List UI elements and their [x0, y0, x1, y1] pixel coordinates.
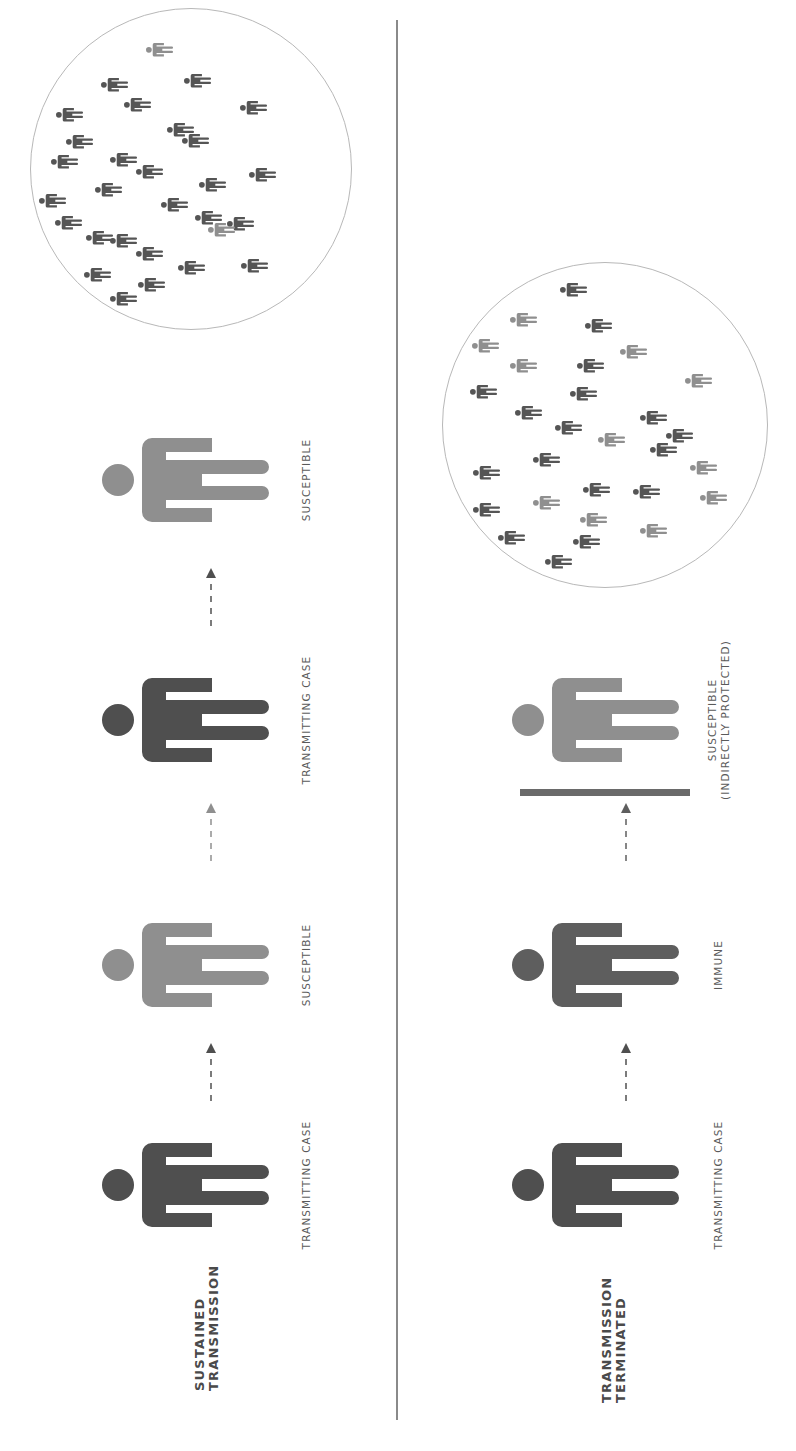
mini-person-icon — [473, 466, 500, 479]
mini-person-icon — [240, 101, 267, 114]
mini-person-icon — [136, 247, 163, 260]
person-susceptible-icon — [100, 410, 280, 550]
mini-person-icon — [545, 555, 572, 568]
mini-person-icon — [633, 485, 660, 498]
mini-person-icon — [110, 234, 137, 247]
mini-person-icon — [86, 231, 113, 244]
mini-person-icon — [182, 134, 209, 147]
mini-person-icon — [650, 443, 677, 456]
person-transmitting-icon — [100, 1115, 280, 1255]
mini-person-icon — [138, 278, 165, 291]
person-transmitting-icon — [100, 650, 280, 790]
chain-label: IMMUNE — [712, 865, 725, 1065]
mini-person-icon — [51, 155, 78, 168]
mini-person-icon — [570, 387, 597, 400]
chain-label: SUSCEPTIBLE — [300, 380, 313, 580]
mini-person-icon — [533, 453, 560, 466]
mini-person-icon — [66, 135, 93, 148]
mini-person-icon — [700, 491, 727, 504]
chain-label: TRANSMITTING CASE — [300, 1085, 313, 1285]
arrow-right-icon — [205, 801, 217, 861]
mini-person-icon — [84, 268, 111, 281]
mini-person-icon — [184, 74, 211, 87]
mini-person-icon — [110, 153, 137, 166]
immunity-barrier — [520, 789, 690, 796]
arrow-right-icon — [205, 1041, 217, 1101]
mini-person-icon — [585, 319, 612, 332]
mini-person-icon — [533, 496, 560, 509]
mini-person-icon — [573, 535, 600, 548]
mini-person-icon — [249, 168, 276, 181]
mini-person-icon — [241, 259, 268, 272]
mini-person-icon — [510, 313, 537, 326]
mini-person-icon — [577, 359, 604, 372]
mini-person-icon — [583, 483, 610, 496]
mini-person-icon — [101, 78, 128, 91]
mini-person-icon — [685, 374, 712, 387]
mini-person-icon — [110, 292, 137, 305]
mini-person-icon — [199, 178, 226, 191]
chain-label: SUSCEPTIBLE — [300, 865, 313, 1065]
mini-person-icon — [470, 385, 497, 398]
scenario-title-sustained: SUSTAINED TRANSMISSION — [193, 1265, 221, 1391]
mini-person-icon — [161, 198, 188, 211]
mini-person-icon — [560, 283, 587, 296]
mini-person-icon — [580, 513, 607, 526]
mini-person-icon — [146, 43, 173, 56]
person-protected-icon — [510, 650, 690, 790]
mini-person-icon — [136, 165, 163, 178]
arrow-right-icon — [620, 1041, 632, 1101]
mini-person-icon — [598, 433, 625, 446]
mini-person-icon — [124, 98, 151, 111]
mini-person-icon — [640, 411, 667, 424]
mini-person-icon — [515, 406, 542, 419]
scenario-title-terminated: TRANSMISSION TERMINATED — [600, 1277, 628, 1403]
mini-person-icon — [555, 421, 582, 434]
mini-person-icon — [510, 359, 537, 372]
mini-person-icon — [39, 194, 66, 207]
population-crowd — [30, 8, 352, 330]
mini-person-icon — [56, 108, 83, 121]
arrow-right-icon — [205, 566, 217, 626]
mini-person-icon — [666, 429, 693, 442]
mini-person-icon — [498, 531, 525, 544]
mini-person-icon — [690, 461, 717, 474]
person-transmitting-icon — [510, 1115, 690, 1255]
herd-immunity-diagram: SUSTAINED TRANSMISSION TRANSMITTING CASE… — [0, 0, 796, 1451]
mini-person-icon — [195, 211, 222, 224]
person-immune-icon — [510, 895, 690, 1035]
chain-label: TRANSMITTING CASE — [300, 620, 313, 820]
mini-person-icon — [95, 183, 122, 196]
mini-person-icon — [178, 261, 205, 274]
mini-person-icon — [472, 339, 499, 352]
mini-person-icon — [55, 216, 82, 229]
person-susceptible-icon — [100, 895, 280, 1035]
arrow-right-icon — [620, 801, 632, 861]
mini-person-icon — [473, 503, 500, 516]
mini-person-icon — [640, 524, 667, 537]
section-divider — [396, 20, 398, 1420]
chain-label: TRANSMITTING CASE — [712, 1085, 725, 1285]
population-crowd — [442, 262, 768, 588]
chain-label: SUSCEPTIBLE (INDIRECTLY PROTECTED) — [706, 620, 732, 820]
mini-person-icon — [620, 345, 647, 358]
